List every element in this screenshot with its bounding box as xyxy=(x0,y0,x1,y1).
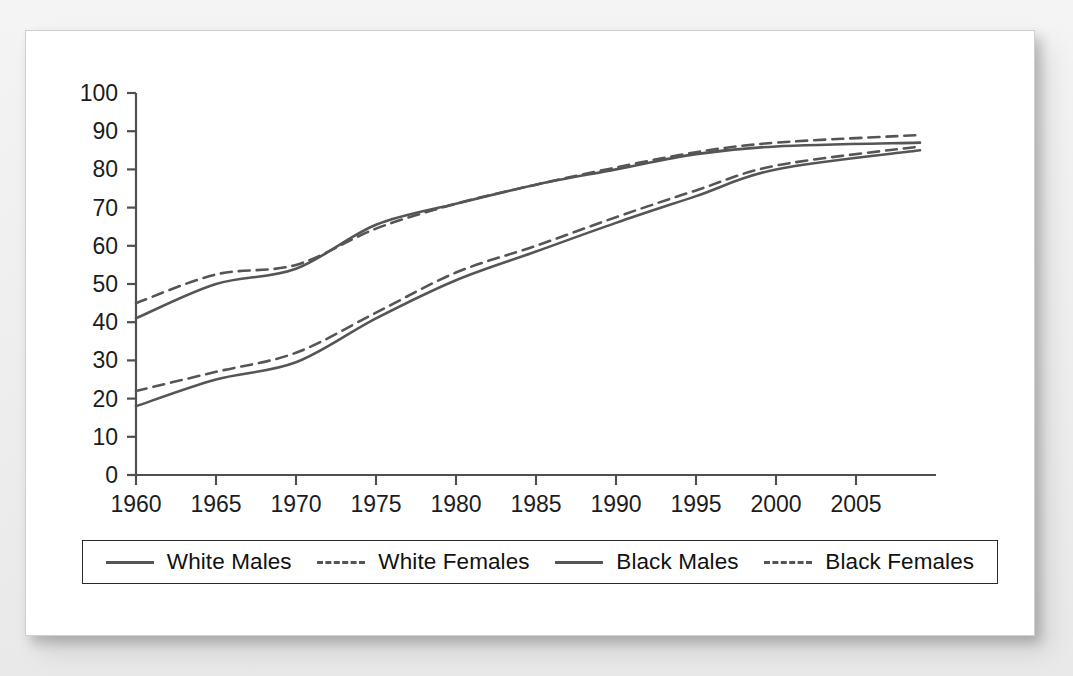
x-tick-label: 2000 xyxy=(750,491,801,517)
y-tick-label: 20 xyxy=(92,386,118,412)
legend-swatch-solid-icon xyxy=(106,561,154,564)
x-tick-label: 2005 xyxy=(830,491,881,517)
legend-entry-white-males[interactable]: White Males xyxy=(106,549,292,575)
y-tick-label: 0 xyxy=(105,462,118,488)
x-tick-label: 1990 xyxy=(590,491,641,517)
x-tick-label: 1965 xyxy=(190,491,241,517)
legend-swatch-dashed-icon xyxy=(317,561,365,564)
x-tick-label: 1995 xyxy=(670,491,721,517)
legend-label: White Males xyxy=(167,549,292,575)
chart-legend: White MalesWhite FemalesBlack MalesBlack… xyxy=(82,540,998,584)
legend-entry-black-males[interactable]: Black Males xyxy=(555,549,738,575)
y-tick-label: 90 xyxy=(92,118,118,144)
x-tick-label: 1980 xyxy=(430,491,481,517)
y-tick-label: 100 xyxy=(80,80,118,106)
x-tick-label: 1975 xyxy=(350,491,401,517)
x-tick-label: 1970 xyxy=(270,491,321,517)
legend-label: Black Females xyxy=(825,549,974,575)
x-tick-label: 1960 xyxy=(110,491,161,517)
legend-swatch-dashed-icon xyxy=(764,561,812,564)
x-tick-label: 1985 xyxy=(510,491,561,517)
series-line-black-females xyxy=(136,146,920,390)
legend-entry-black-females[interactable]: Black Females xyxy=(764,549,974,575)
chart-axes xyxy=(127,93,936,485)
legend-entry-white-females[interactable]: White Females xyxy=(317,549,529,575)
y-tick-label: 60 xyxy=(92,233,118,259)
chart-series-group xyxy=(136,135,920,406)
y-tick-label: 10 xyxy=(92,424,118,450)
legend-label: White Females xyxy=(378,549,529,575)
y-tick-label: 80 xyxy=(92,156,118,182)
y-tick-label: 70 xyxy=(92,195,118,221)
y-tick-label: 30 xyxy=(92,347,118,373)
legend-label: Black Males xyxy=(616,549,738,575)
y-tick-label: 50 xyxy=(92,271,118,297)
x-axis-tick-labels: 1960196519701975198019851990199520002005 xyxy=(110,491,881,517)
series-line-white-males xyxy=(136,143,920,319)
y-axis-tick-labels: 0102030405060708090100 xyxy=(80,80,118,488)
y-tick-label: 40 xyxy=(92,309,118,335)
legend-swatch-solid-icon xyxy=(555,561,603,564)
